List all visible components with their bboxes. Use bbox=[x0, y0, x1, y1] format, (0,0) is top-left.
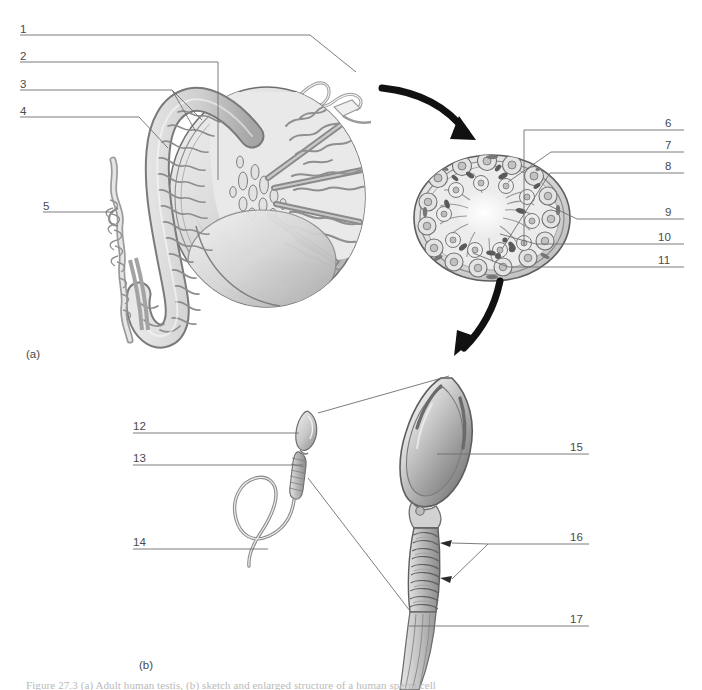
callout-label-2: 2 bbox=[20, 51, 27, 63]
figure-container: 1234567891011121314151617 (a)(b) Figure … bbox=[0, 0, 702, 690]
callout-label-9: 9 bbox=[665, 207, 672, 219]
callout-label-13: 13 bbox=[133, 453, 146, 465]
callout-label-14: 14 bbox=[133, 537, 146, 549]
whole-sperm-small bbox=[235, 411, 317, 566]
callout-label-4: 4 bbox=[20, 106, 27, 118]
panel-b-tag: (b) bbox=[139, 659, 153, 671]
epididymis-tail-drawing bbox=[106, 160, 148, 340]
callout-label-5: 5 bbox=[43, 201, 50, 213]
testis-illustration bbox=[106, 83, 372, 340]
centriole bbox=[416, 507, 424, 515]
enlarged-sperm bbox=[400, 378, 472, 690]
sperm-midpiece-small bbox=[290, 452, 306, 499]
sperm-illustration bbox=[235, 378, 473, 690]
callout-label-7: 7 bbox=[665, 140, 672, 152]
leader-lines bbox=[20, 35, 684, 626]
leader-line-4 bbox=[20, 117, 168, 148]
arrow-testis-to-tubule bbox=[382, 88, 476, 140]
arrow-tubule-to-sperm bbox=[454, 281, 500, 356]
leader-line-16b bbox=[452, 544, 488, 579]
anatomy-illustration-svg bbox=[0, 0, 702, 690]
mitochondria-arrowheads bbox=[440, 540, 452, 583]
callout-label-11: 11 bbox=[658, 255, 670, 267]
sperm-tail-small bbox=[235, 477, 294, 566]
figure-caption: Figure 27.3 (a) Adult human testis, (b) … bbox=[26, 679, 436, 690]
leader-magnify-midpiece bbox=[308, 478, 410, 611]
panel-a-tag: (a) bbox=[26, 348, 40, 360]
callout-label-8: 8 bbox=[665, 161, 672, 173]
leader-line-16 bbox=[452, 543, 589, 544]
callout-label-10: 10 bbox=[658, 232, 671, 244]
callout-label-12: 12 bbox=[133, 421, 146, 433]
callout-label-15: 15 bbox=[570, 442, 583, 454]
leader-line-1 bbox=[20, 35, 356, 72]
callout-label-16: 16 bbox=[570, 532, 583, 544]
seminiferous-tubule-cross-section bbox=[414, 152, 570, 282]
callout-label-1: 1 bbox=[20, 24, 27, 36]
callout-label-6: 6 bbox=[665, 118, 672, 130]
callout-label-17: 17 bbox=[570, 614, 583, 626]
sperm-head-small bbox=[296, 411, 317, 450]
callout-label-3: 3 bbox=[20, 79, 27, 91]
